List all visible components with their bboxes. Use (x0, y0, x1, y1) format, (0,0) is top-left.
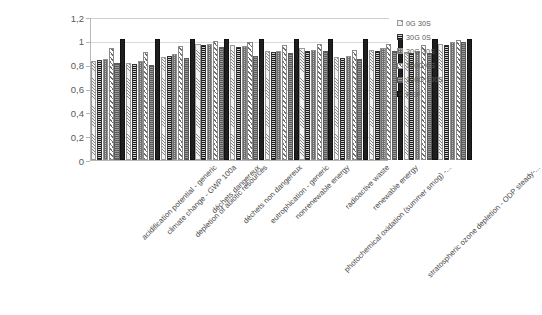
y-axis-tick-label: 0,8 (38, 61, 84, 70)
legend-item[interactable]: REF (397, 87, 469, 101)
bar[interactable] (299, 48, 304, 160)
bar[interactable] (230, 45, 235, 160)
bar[interactable] (132, 64, 137, 160)
bar-group (334, 18, 369, 160)
bar[interactable] (357, 59, 362, 160)
bar[interactable] (126, 63, 131, 160)
bar[interactable] (207, 44, 212, 160)
bar[interactable] (195, 44, 200, 160)
bar[interactable] (294, 39, 299, 160)
legend-label: 30G 30S (406, 47, 435, 56)
bar-group (91, 18, 126, 160)
legend-swatch (397, 20, 403, 26)
bar[interactable] (352, 50, 357, 160)
bar[interactable] (282, 45, 287, 160)
legend-item[interactable]: 100G 100S (397, 73, 469, 87)
y-axis-tick-label: 0,4 (38, 109, 84, 118)
legend-label: 0G 30S (406, 19, 431, 28)
y-axis-tick-label: 0,2 (38, 133, 84, 142)
legend-label: 100G 0S (406, 61, 435, 70)
bar-groups (91, 18, 388, 160)
bar[interactable] (236, 47, 241, 160)
bar[interactable] (219, 47, 224, 160)
bar[interactable] (242, 46, 247, 160)
y-axis-tick-label: 1,2 (38, 14, 84, 23)
bar[interactable] (213, 41, 218, 160)
bar[interactable] (201, 45, 206, 160)
bar[interactable] (340, 58, 345, 160)
bar[interactable] (380, 48, 385, 160)
bar[interactable] (288, 53, 293, 160)
bar[interactable] (114, 63, 119, 160)
bar[interactable] (190, 39, 195, 160)
bar[interactable] (276, 51, 281, 160)
bar[interactable] (224, 39, 229, 160)
bar[interactable] (369, 50, 374, 160)
bar[interactable] (178, 46, 183, 160)
bar[interactable] (172, 54, 177, 160)
bar-group (195, 18, 230, 160)
bar[interactable] (259, 39, 264, 160)
bar-group (299, 18, 334, 160)
bar[interactable] (247, 42, 252, 160)
legend-swatch (397, 34, 403, 40)
bar[interactable] (91, 61, 96, 160)
bar-group (160, 18, 195, 160)
bar[interactable] (328, 39, 333, 160)
bar[interactable] (109, 48, 114, 160)
legend-swatch (397, 77, 403, 83)
legend-label: 100G 100S (406, 75, 443, 84)
bar[interactable] (167, 56, 172, 160)
bar[interactable] (120, 39, 125, 160)
legend-item[interactable]: 0G 30S (397, 16, 469, 30)
bar[interactable] (334, 57, 339, 160)
y-axis-tick-label: 0,6 (38, 85, 84, 94)
bar[interactable] (138, 61, 143, 160)
bar[interactable] (161, 57, 166, 160)
bar[interactable] (265, 51, 270, 160)
bar[interactable] (311, 50, 316, 160)
legend-item[interactable]: 30G 30S (397, 44, 469, 58)
x-axis-labels: acidification potential - genericclimate… (0, 163, 471, 313)
y-axis-tick-mark (86, 161, 90, 162)
chart-legend: 0G 30S30G 0S30G 30S100G 0S100G 100SREF (397, 16, 469, 101)
bar[interactable] (375, 51, 380, 160)
bar-group (126, 18, 161, 160)
legend-swatch (397, 91, 403, 97)
y-axis-tick-mark (86, 113, 90, 114)
bar[interactable] (305, 51, 310, 160)
bar[interactable] (271, 52, 276, 160)
bar[interactable] (386, 44, 391, 160)
bar-group (264, 18, 299, 160)
bar[interactable] (317, 44, 322, 160)
bar[interactable] (97, 60, 102, 160)
bar[interactable] (346, 56, 351, 160)
legend-swatch (397, 48, 403, 54)
y-axis-tick-mark (86, 42, 90, 43)
y-axis-tick-mark (86, 18, 90, 19)
y-axis-tick-label: 1 (38, 37, 84, 46)
x-axis-tick-label: stratospheric ozone depletion - ODP stea… (426, 163, 542, 279)
legend-swatch (397, 63, 403, 69)
legend-label: REF (406, 90, 421, 99)
legend-item[interactable]: 30G 0S (397, 30, 469, 44)
bar[interactable] (149, 65, 154, 160)
legend-label: 30G 0S (406, 33, 431, 42)
y-axis-tick-mark (86, 66, 90, 67)
bar[interactable] (253, 56, 258, 160)
bar[interactable] (103, 59, 108, 160)
bar[interactable] (363, 39, 368, 160)
bar-group (230, 18, 265, 160)
y-axis-tick-mark (86, 90, 90, 91)
bar[interactable] (143, 52, 148, 160)
legend-item[interactable]: 100G 0S (397, 59, 469, 73)
bar[interactable] (184, 58, 189, 160)
y-axis-tick-mark (86, 137, 90, 138)
bar[interactable] (155, 39, 160, 160)
bar[interactable] (323, 51, 328, 160)
